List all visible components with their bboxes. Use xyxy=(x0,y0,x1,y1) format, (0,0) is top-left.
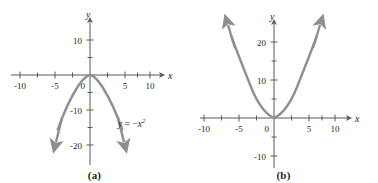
y-tick-label-a-2: -20 xyxy=(70,141,82,151)
x-tick-label-a-3: 5 xyxy=(123,81,128,91)
y-tick-label-b-2: -10 xyxy=(254,152,266,162)
x-tick-label-b-4: 10 xyxy=(331,124,341,134)
panel-caption-a: (a) xyxy=(0,169,189,181)
y-axis-label-a: y xyxy=(85,9,91,20)
panel-a: -10 -5 0 5 10 10 -10 -20 x y y = −x2 (a) xyxy=(0,0,189,183)
equation-label-a: y = −x2 xyxy=(118,120,145,130)
curve-b-arrow-left xyxy=(228,25,235,48)
x-tick-label-a-2: 0 xyxy=(81,81,86,91)
x-tick-label-b-3: 5 xyxy=(307,124,312,134)
equation-a-exponent: 2 xyxy=(142,117,145,124)
panel-b: -10 -5 0 5 10 20 10 -10 x y y =12x2 (b) xyxy=(189,0,378,183)
x-axis-label-b: x xyxy=(354,113,360,124)
x-tick-label-b-0: -10 xyxy=(198,124,210,134)
y-axis-label-b: y xyxy=(269,11,275,22)
graph-a: -10 -5 0 5 10 10 -10 -20 x y xyxy=(0,0,189,183)
panel-caption-b: (b) xyxy=(189,169,378,181)
y-tick-label-a-1: -10 xyxy=(70,106,82,116)
graph-b: -10 -5 0 5 10 20 10 -10 x y xyxy=(189,0,378,183)
y-tick-label-b-0: 20 xyxy=(257,38,267,48)
y-tick-label-b-1: 10 xyxy=(257,76,267,86)
equation-a-y: y xyxy=(118,119,122,129)
x-tick-label-b-2: 0 xyxy=(265,124,270,134)
equation-a-equals: = xyxy=(125,119,130,129)
x-tick-label-a-4: 10 xyxy=(146,81,156,91)
x-tick-label-a-0: -10 xyxy=(14,81,26,91)
x-tick-label-a-1: -5 xyxy=(51,81,59,91)
figure-row: -10 -5 0 5 10 10 -10 -20 x y y = −x2 (a) xyxy=(0,0,378,183)
x-tick-label-b-1: -5 xyxy=(235,124,243,134)
y-tick-label-a-0: 10 xyxy=(73,36,83,46)
curve-b-arrow-right xyxy=(313,25,320,48)
x-axis-label-a: x xyxy=(167,70,173,81)
